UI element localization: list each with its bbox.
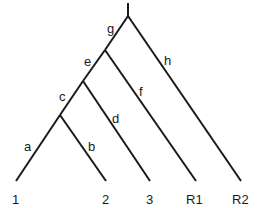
- tip-label-1: 1: [12, 192, 19, 207]
- branch-label-f: f: [139, 84, 143, 99]
- tip-label-2: 2: [102, 192, 109, 207]
- branch-a: [16, 115, 60, 181]
- branch-label-a: a: [24, 139, 32, 154]
- tip-label-r2: R2: [232, 192, 249, 207]
- branch-label-d: d: [112, 111, 119, 126]
- branch-label-h: h: [164, 53, 171, 68]
- tree-svg: a b c d e f g h 1 2 3 R1 R2: [0, 0, 257, 208]
- branch-b: [60, 115, 106, 181]
- branch-label-c: c: [59, 89, 66, 104]
- branch-label-g: g: [107, 21, 114, 36]
- tip-label-r1: R1: [186, 192, 203, 207]
- branch-h: [128, 16, 241, 181]
- tip-label-3: 3: [146, 192, 153, 207]
- phylogenetic-tree-diagram: a b c d e f g h 1 2 3 R1 R2: [0, 0, 257, 208]
- branch-label-b: b: [88, 139, 95, 154]
- branch-label-e: e: [84, 54, 91, 69]
